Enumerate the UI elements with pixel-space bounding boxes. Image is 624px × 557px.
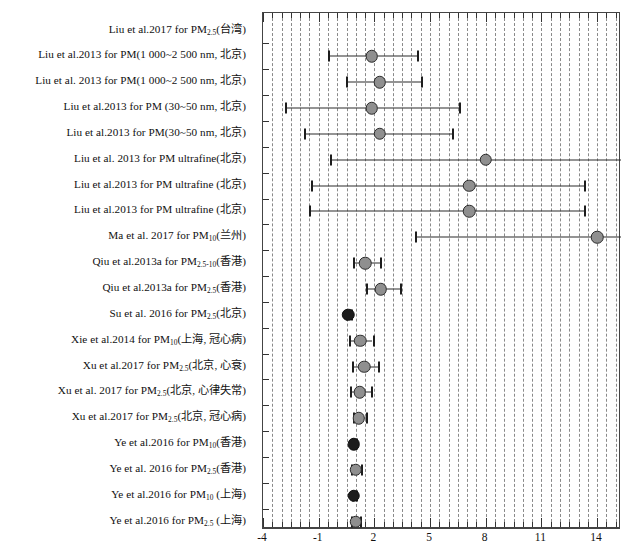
point-estimate-marker [479, 154, 492, 167]
x-tick-minor [523, 13, 524, 18]
x-tick-minor-bottom [384, 522, 385, 527]
y-tick [263, 276, 269, 277]
ci-cap-lower [309, 206, 311, 217]
gridline [421, 13, 422, 527]
ci-cap-lower [304, 128, 306, 139]
y-tick [263, 302, 269, 303]
pm-subscript: 2.5 [157, 390, 166, 399]
x-tick-major-bottom [597, 518, 598, 527]
gridline [616, 13, 617, 527]
study-label-column: Liu et al.2017 for PM2.5(台湾)Liu et al.20… [0, 0, 252, 528]
x-tick-major [541, 13, 542, 22]
gridline [328, 13, 329, 527]
gridline [300, 13, 301, 527]
x-tick-minor-bottom [402, 522, 403, 527]
x-tick-minor [439, 13, 440, 18]
gridline [402, 13, 403, 527]
x-tick-major [374, 13, 375, 22]
study-label: Ye et al.2016 for PM10(香港) [114, 437, 246, 448]
x-tick-minor-bottom [579, 522, 580, 527]
point-estimate-marker [354, 334, 367, 347]
study-label: Liu et al.2013 for PM(30~50 nm, 北京) [66, 127, 246, 138]
x-tick-minor-bottom [272, 522, 273, 527]
ci-cap-lower [353, 258, 355, 269]
ci-cap-upper [366, 413, 368, 424]
ci-cap-upper [378, 361, 380, 372]
x-tick-minor-bottom [532, 522, 533, 527]
x-tick-minor [328, 13, 329, 18]
x-tick-minor [560, 13, 561, 18]
point-estimate-marker [591, 231, 604, 244]
ci-cap-upper [584, 206, 586, 217]
point-estimate-marker [358, 360, 371, 373]
x-tick-minor [606, 13, 607, 18]
gridline [606, 13, 607, 527]
x-tick-minor [365, 13, 366, 18]
x-tick-minor-bottom [347, 522, 348, 527]
x-tick-minor-bottom [514, 522, 515, 527]
gridline [272, 13, 273, 527]
x-tick-minor-bottom [300, 522, 301, 527]
gridline [291, 13, 292, 527]
study-label: Liu et al.2013 for PM(1 000~2 500 nm, 北京… [38, 50, 246, 61]
point-estimate-marker [348, 490, 361, 503]
ci-cap-lower [352, 361, 354, 372]
gridline [282, 13, 283, 527]
study-label: Qiu et al.2013a for PM2.5(香港) [102, 282, 246, 293]
x-tick-minor [588, 13, 589, 18]
x-tick-minor-bottom [588, 522, 589, 527]
pm-subscript: 2.5 [207, 286, 216, 295]
y-tick [263, 224, 269, 225]
x-tick-minor-bottom [421, 522, 422, 527]
x-tick-major-bottom [319, 518, 320, 527]
pm-subscript: 2.5 [207, 312, 216, 321]
x-tick-minor [356, 13, 357, 18]
study-label: Xu et al.2017 for PM2.5(北京, 心衰) [83, 360, 246, 371]
y-tick [263, 250, 269, 251]
x-tick-minor [272, 13, 273, 18]
x-tick-minor-bottom [393, 522, 394, 527]
y-tick [263, 121, 269, 122]
x-tick-major-bottom [263, 518, 264, 527]
x-tick-minor-bottom [476, 522, 477, 527]
x-tick-minor [411, 13, 412, 18]
point-estimate-marker [353, 386, 366, 399]
x-tick-minor [421, 13, 422, 18]
gridline [309, 13, 310, 527]
x-tick-minor-bottom [439, 522, 440, 527]
gridline [588, 13, 589, 527]
x-tick-minor [402, 13, 403, 18]
ci-cap-upper [380, 258, 382, 269]
x-tick-minor [300, 13, 301, 18]
ci-cap-lower [350, 387, 352, 398]
study-label: Ye et al. 2016 for PM2.5(香港) [109, 463, 246, 474]
x-tick-minor-bottom [569, 522, 570, 527]
x-tick-minor [291, 13, 292, 18]
gridline [569, 13, 570, 527]
x-tick-minor [347, 13, 348, 18]
x-axis-label: 11 [535, 531, 546, 543]
x-tick-major [263, 13, 264, 22]
study-label: Liu et al.2013 for PM ultrafine (北京) [74, 205, 246, 216]
x-tick-minor [337, 13, 338, 18]
ci-cap-upper [459, 103, 461, 114]
gridline [476, 13, 477, 527]
x-tick-minor-bottom [560, 522, 561, 527]
x-tick-minor-bottom [282, 522, 283, 527]
ci-cap-lower [311, 180, 313, 191]
x-tick-minor-bottom [337, 522, 338, 527]
gridline [337, 13, 338, 527]
ci-cap-upper [421, 77, 423, 88]
ci-cap-lower [346, 77, 348, 88]
point-estimate-marker [359, 257, 372, 270]
gridline [560, 13, 561, 527]
point-estimate-marker [374, 128, 387, 141]
x-tick-minor [514, 13, 515, 18]
gridline [579, 13, 580, 527]
gridline [347, 13, 348, 527]
point-estimate-marker [365, 102, 378, 115]
x-tick-major-bottom [486, 518, 487, 527]
gridline [504, 13, 505, 527]
x-tick-major-bottom [430, 518, 431, 527]
x-tick-minor-bottom [449, 522, 450, 527]
